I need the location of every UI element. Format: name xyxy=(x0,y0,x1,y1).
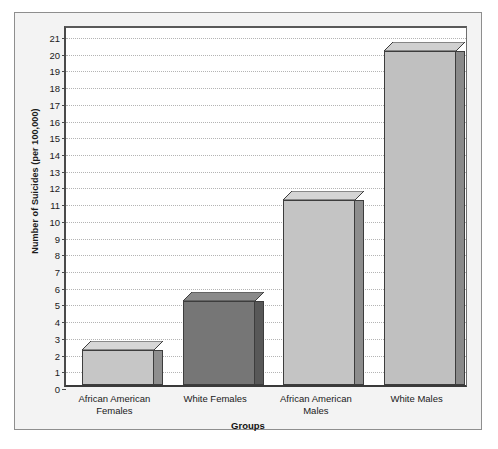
y-tick-label: 3 xyxy=(55,333,60,344)
x-axis-label: African AmericanMales xyxy=(266,393,367,416)
y-tick-label: 1 xyxy=(55,367,60,378)
y-tick-label: 0 xyxy=(55,384,60,395)
bar xyxy=(384,51,456,385)
y-tick-label: 19 xyxy=(49,66,60,77)
x-axis-label-line: Males xyxy=(266,405,367,417)
y-tick-label: 13 xyxy=(49,166,60,177)
bar-front-face xyxy=(384,51,456,385)
y-tick-label: 6 xyxy=(55,283,60,294)
x-axis-label: White Females xyxy=(165,393,266,405)
x-axis-label-line: African American xyxy=(64,393,165,405)
x-axis-label-line: Females xyxy=(64,405,165,417)
bar-front-face xyxy=(283,200,355,386)
x-axis-label: African AmericanFemales xyxy=(64,393,165,416)
bar-front-face xyxy=(82,350,154,385)
bar-top-face xyxy=(183,292,264,301)
y-tick-label: 7 xyxy=(55,267,60,278)
y-tick-label: 18 xyxy=(49,83,60,94)
y-tick-label: 17 xyxy=(49,99,60,110)
x-axis-label-line: White Males xyxy=(366,393,467,405)
plot-area: 0123456789101112131415161718192021 xyxy=(64,26,467,387)
bar xyxy=(82,350,154,385)
chart-figure-frame: Number of Suicides (per 100,000) 0123456… xyxy=(14,12,482,430)
y-tick-label: 5 xyxy=(55,300,60,311)
x-axis-label-line: White Females xyxy=(165,393,266,405)
bar-top-face xyxy=(283,191,364,200)
bar xyxy=(183,301,255,385)
y-tick-label: 12 xyxy=(49,183,60,194)
y-tick-label: 21 xyxy=(49,33,60,44)
bar-side-face xyxy=(456,51,465,385)
bar-front-face xyxy=(183,301,255,385)
bar xyxy=(283,200,355,386)
bar-side-face xyxy=(355,200,364,386)
x-axis-label: White Males xyxy=(366,393,467,405)
y-tick-label: 2 xyxy=(55,350,60,361)
bar-top-face xyxy=(82,341,163,350)
bar-side-face xyxy=(255,301,264,385)
y-tick-label: 9 xyxy=(55,233,60,244)
y-tick-mark xyxy=(62,389,66,390)
y-tick-label: 15 xyxy=(49,133,60,144)
bars-layer xyxy=(66,28,466,385)
y-tick-label: 14 xyxy=(49,150,60,161)
y-tick-label: 11 xyxy=(50,200,60,211)
x-axis-label-line: African American xyxy=(266,393,367,405)
bar-top-face xyxy=(384,42,465,51)
y-tick-label: 16 xyxy=(49,116,60,127)
y-tick-label: 10 xyxy=(49,216,60,227)
y-tick-label: 4 xyxy=(55,317,60,328)
x-axis-title: Groups xyxy=(15,420,481,431)
y-tick-label: 8 xyxy=(55,250,60,261)
y-tick-label: 20 xyxy=(49,49,60,60)
bar-side-face xyxy=(154,350,163,385)
y-axis-title: Number of Suicides (per 100,000) xyxy=(30,86,40,276)
